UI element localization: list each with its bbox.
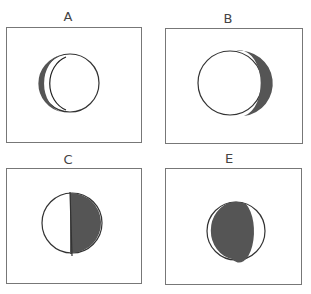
panel-e-moon-icon xyxy=(0,0,311,294)
